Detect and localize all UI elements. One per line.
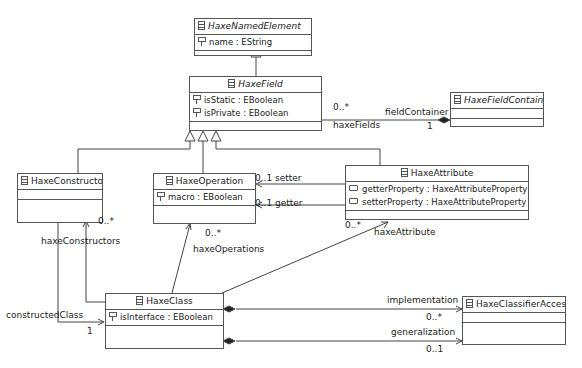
- class-header: HaxeNamedElement: [195, 19, 311, 35]
- class-haxeclassifieraccess[interactable]: HaxeClassifierAccess: [462, 296, 566, 345]
- attributes-compartment: name : EString: [195, 35, 311, 51]
- getter-multiplicity: 0..1: [255, 198, 272, 208]
- attributes-compartment: isStatic : EBoolean isPrivate : EBoolean: [190, 93, 321, 122]
- haxefields-multiplicity: 0..*: [333, 102, 349, 112]
- fieldcontainer-role: fieldContainer: [385, 107, 448, 117]
- class-haxenamedelement[interactable]: HaxeNamedElement name : EString: [194, 18, 312, 56]
- attribute-row: setterProperty : HaxeAttributeProperty: [346, 196, 528, 209]
- generalization-role: generalization: [391, 327, 455, 337]
- generalization-multiplicity: 0..1: [426, 344, 443, 354]
- class-haxefield[interactable]: HaxeField isStatic : EBoolean isPrivate …: [189, 76, 322, 131]
- class-icon: [228, 79, 235, 88]
- class-haxeclass[interactable]: HaxeClass isInterface : EBoolean: [105, 293, 224, 349]
- constructedclass-role: constructedClass: [6, 310, 83, 320]
- constructedclass-multiplicity: 1: [87, 326, 93, 336]
- class-header: HaxeConstructor: [18, 174, 102, 190]
- attribute-pin-icon: [193, 108, 201, 117]
- class-icon: [21, 176, 28, 185]
- attribute-row: isInterface : EBoolean: [106, 311, 223, 324]
- attribute-row: macro : EBoolean: [154, 191, 255, 204]
- class-icon: [454, 95, 461, 104]
- attribute-row: isPrivate : EBoolean: [190, 107, 321, 120]
- haxeconstructors-role: haxeConstructors: [41, 236, 120, 246]
- class-header: HaxeAttribute: [346, 166, 528, 182]
- attributes-compartment: getterProperty : HaxeAttributeProperty s…: [346, 182, 528, 211]
- property-icon: [349, 185, 358, 191]
- property-icon: [349, 198, 358, 204]
- attribute-pin-icon: [157, 192, 165, 201]
- haxeoperations-multiplicity: 0..*: [205, 228, 221, 238]
- attribute-pin-icon: [109, 312, 117, 321]
- class-icon: [466, 299, 473, 308]
- haxeoperations-role: haxeOperations: [193, 244, 264, 254]
- attributes-compartment: [463, 313, 565, 323]
- attribute-row: name : EString: [195, 36, 311, 49]
- attribute-pin-icon: [198, 37, 206, 46]
- attributes-compartment: [451, 109, 543, 119]
- setter-role: setter: [275, 173, 302, 183]
- class-header: HaxeOperation: [154, 174, 255, 190]
- class-haxeattribute[interactable]: HaxeAttribute getterProperty : HaxeAttri…: [345, 165, 529, 220]
- attributes-compartment: isInterface : EBoolean: [106, 310, 223, 326]
- attributes-compartment: macro : EBoolean: [154, 190, 255, 206]
- implementation-role: implementation: [387, 295, 458, 305]
- class-header: HaxeField: [190, 77, 321, 93]
- class-header: HaxeClass: [106, 294, 223, 310]
- attribute-row: getterProperty : HaxeAttributeProperty: [346, 183, 528, 196]
- class-haxeconstructor[interactable]: HaxeConstructor: [17, 173, 103, 223]
- getter-role: getter: [275, 198, 303, 208]
- class-header: HaxeFieldContainer: [451, 93, 543, 109]
- class-icon: [401, 168, 408, 177]
- attributes-compartment: [18, 190, 102, 200]
- haxeattribute-role: haxeAttribute: [374, 227, 436, 237]
- haxefields-role: haxeFields: [333, 120, 380, 130]
- haxeattribute-multiplicity: 0..*: [345, 220, 361, 230]
- class-haxefieldcontainer[interactable]: HaxeFieldContainer: [450, 92, 544, 127]
- attribute-pin-icon: [193, 95, 201, 104]
- class-haxeoperation[interactable]: HaxeOperation macro : EBoolean: [153, 173, 256, 224]
- haxeconstructors-multiplicity: 0..*: [98, 216, 114, 226]
- attribute-row: isStatic : EBoolean: [190, 94, 321, 107]
- class-icon: [166, 176, 173, 185]
- fieldcontainer-multiplicity: 1: [427, 121, 433, 131]
- setter-multiplicity: 0..1: [255, 173, 272, 183]
- class-header: HaxeClassifierAccess: [463, 297, 565, 313]
- implementation-multiplicity: 0..*: [426, 312, 442, 322]
- class-icon: [198, 21, 205, 30]
- class-icon: [136, 296, 143, 305]
